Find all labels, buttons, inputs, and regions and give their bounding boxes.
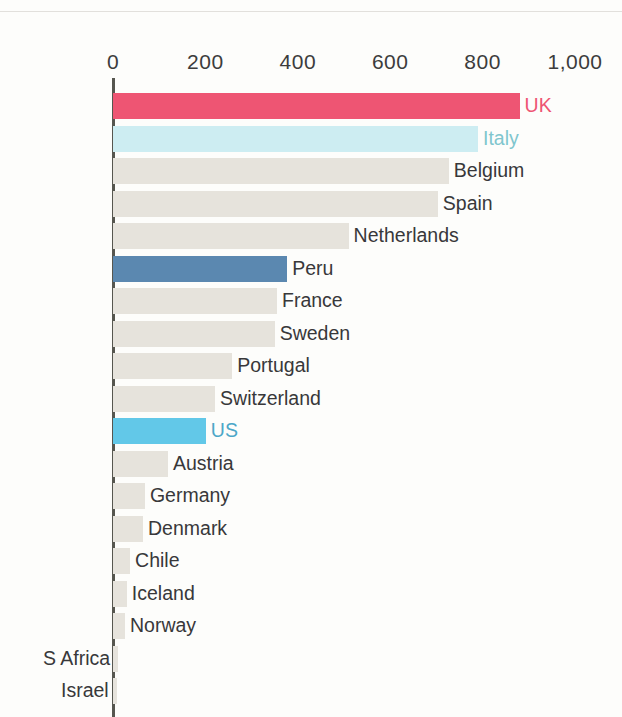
bar-us[interactable] [113, 418, 206, 444]
bar-iceland[interactable] [113, 581, 127, 607]
bar-row: Portugal [0, 350, 622, 383]
x-axis-tick-400: 400 [280, 50, 317, 74]
top-divider [0, 11, 622, 12]
bar-row: Austria [0, 448, 622, 481]
bar-label-us: US [211, 416, 238, 445]
bar-row: Sweden [0, 318, 622, 351]
bar-belgium[interactable] [113, 158, 449, 184]
x-axis-tick-1000: 1,000 [547, 50, 602, 74]
bar-label-sweden: Sweden [280, 319, 350, 348]
bar-peru[interactable] [113, 256, 287, 282]
bar-denmark[interactable] [113, 516, 143, 542]
bar-italy[interactable] [113, 126, 478, 152]
x-axis-tick-800: 800 [464, 50, 501, 74]
bar-row: Norway [0, 610, 622, 643]
bar-norway[interactable] [113, 613, 125, 639]
bar-s-africa[interactable] [113, 646, 118, 672]
bar-israel[interactable] [113, 678, 117, 704]
bar-label-austria: Austria [173, 449, 234, 478]
bar-label-switzerland: Switzerland [220, 384, 321, 413]
bar-row: Netherlands [0, 220, 622, 253]
x-axis-tick-600: 600 [372, 50, 409, 74]
bar-row: Switzerland [0, 383, 622, 416]
bar-label-netherlands: Netherlands [354, 221, 459, 250]
bar-label-denmark: Denmark [148, 514, 227, 543]
horizontal-bar-chart: 02004006008001,000 UKItalyBelgiumSpainNe… [0, 0, 622, 717]
bar-germany[interactable] [113, 483, 145, 509]
bar-spain[interactable] [113, 191, 438, 217]
bar-label-portugal: Portugal [237, 351, 310, 380]
bar-label-uk: UK [525, 91, 552, 120]
bar-row: Italy [0, 123, 622, 156]
bar-row: Chile [0, 545, 622, 578]
x-axis-tick-0: 0 [107, 50, 119, 74]
bar-austria[interactable] [113, 451, 168, 477]
bar-label-chile: Chile [135, 546, 179, 575]
bar-france[interactable] [113, 288, 277, 314]
bar-netherlands[interactable] [113, 223, 349, 249]
x-axis-tick-labels: 02004006008001,000 [0, 50, 622, 76]
bar-uk[interactable] [113, 93, 520, 119]
bar-row: Spain [0, 188, 622, 221]
bar-row: France [0, 285, 622, 318]
bar-row: UK [0, 90, 622, 123]
bar-chile[interactable] [113, 548, 130, 574]
bar-label-italy: Italy [483, 124, 519, 153]
bar-row: Peru [0, 253, 622, 286]
bar-portugal[interactable] [113, 353, 232, 379]
bar-label-france: France [282, 286, 343, 315]
bar-row: Belgium [0, 155, 622, 188]
bar-row: S Africa [0, 643, 622, 676]
bar-sweden[interactable] [113, 321, 275, 347]
bar-row: Denmark [0, 513, 622, 546]
bar-label-spain: Spain [443, 189, 493, 218]
bar-label-germany: Germany [150, 481, 230, 510]
bar-row: Germany [0, 480, 622, 513]
bar-row: Israel [0, 675, 622, 708]
bar-label-belgium: Belgium [454, 156, 524, 185]
bar-row: Iceland [0, 578, 622, 611]
bar-label-norway: Norway [130, 611, 196, 640]
bar-label-s-africa: S Africa [43, 644, 110, 673]
bar-label-iceland: Iceland [132, 579, 195, 608]
x-axis-tick-200: 200 [187, 50, 224, 74]
plot-area: UKItalyBelgiumSpainNetherlandsPeruFrance… [0, 78, 622, 717]
bar-label-peru: Peru [292, 254, 333, 283]
bar-switzerland[interactable] [113, 386, 215, 412]
bar-row: US [0, 415, 622, 448]
bar-label-israel: Israel [61, 676, 109, 705]
